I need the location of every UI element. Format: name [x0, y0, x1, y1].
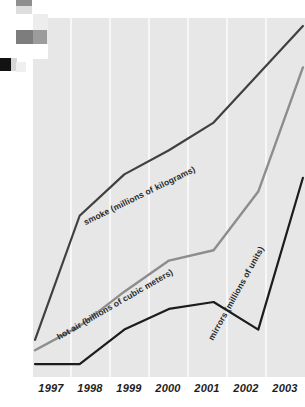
scan-swatch-white-gap	[0, 14, 33, 24]
scan-artifact-swatches	[0, 0, 60, 90]
scan-swatch-light-col	[33, 14, 48, 30]
x-tick-2003: 2003	[259, 382, 305, 394]
scan-swatch-faint	[16, 62, 26, 72]
line-chart: smoke (millions of kilograms) hot air (b…	[0, 0, 305, 407]
scan-swatch-white-box	[33, 44, 48, 59]
scan-swatch-pale-upper	[16, 6, 32, 14]
scan-swatch-black	[0, 58, 11, 71]
scan-swatch-midgray	[33, 30, 47, 44]
x-axis: 1997 1998 1999 2000 2001 2002 2003	[33, 380, 305, 402]
scan-swatch-darkgray	[16, 30, 33, 44]
